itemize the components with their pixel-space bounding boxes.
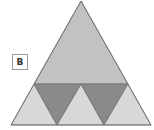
figure-label: B: [12, 54, 28, 70]
top-region: [34, 1, 128, 84]
triangle-figure: B: [0, 0, 154, 130]
